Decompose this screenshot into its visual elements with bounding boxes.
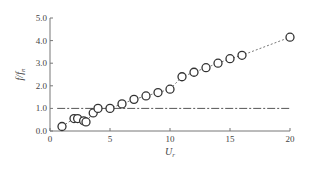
y-tick-label: 1.0: [36, 103, 48, 113]
y-axis-title: f/fn: [14, 68, 27, 80]
x-axis-title-sub: r: [172, 151, 175, 159]
data-point-marker: [154, 89, 162, 97]
y-tick-label: 4.0: [36, 36, 48, 46]
y-tick-label: 5.0: [36, 13, 48, 23]
plot-area: 051015200.01.02.03.04.05.0Urf/fn: [14, 13, 295, 159]
data-point-marker: [202, 64, 210, 72]
chart-canvas: 051015200.01.02.03.04.05.0Urf/fn: [0, 0, 310, 169]
data-point-marker: [106, 104, 114, 112]
data-point-marker: [214, 59, 222, 67]
data-point-marker: [286, 33, 294, 41]
data-point-marker: [238, 51, 246, 59]
x-axis-title: Ur: [165, 146, 175, 159]
data-point-marker: [118, 100, 126, 108]
y-axis-title-sub: n: [19, 68, 27, 72]
x-tick-label: 5: [108, 134, 113, 144]
y-tick-label: 0.0: [36, 126, 48, 136]
x-tick-label: 0: [48, 134, 53, 144]
data-point-marker: [130, 95, 138, 103]
x-tick-label: 10: [166, 134, 176, 144]
data-point-marker: [190, 68, 198, 76]
data-point-marker: [82, 118, 90, 126]
x-tick-label: 20: [286, 134, 296, 144]
data-point-marker: [94, 104, 102, 112]
data-point-marker: [142, 92, 150, 100]
data-point-marker: [226, 55, 234, 63]
data-point-marker: [178, 73, 186, 81]
x-tick-label: 15: [226, 134, 236, 144]
y-tick-label: 3.0: [36, 58, 48, 68]
y-tick-label: 2.0: [36, 81, 48, 91]
data-point-marker: [58, 122, 66, 130]
data-point-marker: [166, 85, 174, 93]
